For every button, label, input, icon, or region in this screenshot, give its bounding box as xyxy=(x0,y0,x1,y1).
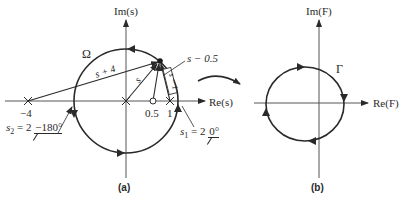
test-point xyxy=(157,58,163,64)
s1-leader xyxy=(182,106,194,127)
s1-annotation: s1 = 2 0° xyxy=(180,126,219,140)
re-f-axis-label: Re(F) xyxy=(373,98,399,109)
gamma-contour xyxy=(266,67,344,141)
tick-label-1: 1 xyxy=(167,108,173,119)
gamma-label: Γ xyxy=(336,63,343,75)
omega-label: Ω xyxy=(82,48,91,60)
angle-symbol: 0° xyxy=(208,125,219,138)
s2-annotation: s2 = 2 −180° xyxy=(6,122,62,136)
caption-b: (b) xyxy=(311,182,324,193)
angle-symbol: −180° xyxy=(34,121,62,134)
tick-label-0-5: 0.5 xyxy=(145,108,159,119)
s-minus-half-label: s − 0.5 xyxy=(187,53,218,64)
re-s-axis-label: Re(s) xyxy=(209,97,233,108)
mapping-arrow xyxy=(198,76,240,84)
f-plane-axes xyxy=(254,20,368,178)
caption-a: (a) xyxy=(118,182,130,193)
diagram-canvas: s − 1 xyxy=(0,0,407,201)
zero-marker xyxy=(150,98,156,104)
tick-label-minus-4: −4 xyxy=(20,108,32,119)
im-s-axis-label: Im(s) xyxy=(114,6,138,17)
im-f-axis-label: Im(F) xyxy=(306,6,332,17)
